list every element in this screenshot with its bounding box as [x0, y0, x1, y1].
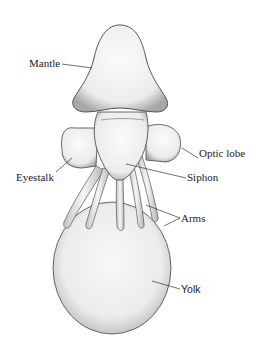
optic-lobe-leader-line	[182, 148, 198, 158]
squid-embryo-figure: Mantle Optic lobe Eyestalk Siphon Arms Y…	[0, 0, 259, 342]
label-optic-lobe: Optic lobe	[199, 148, 245, 159]
mantle	[73, 25, 168, 112]
label-arms: Arms	[181, 213, 205, 224]
label-yolk: Yolk	[181, 284, 200, 295]
label-siphon: Siphon	[187, 172, 218, 183]
label-eyestalk: Eyestalk	[16, 172, 54, 183]
arms-leader-line-2	[164, 218, 180, 226]
label-mantle: Mantle	[29, 58, 60, 69]
mantle-leader-line	[62, 64, 92, 68]
